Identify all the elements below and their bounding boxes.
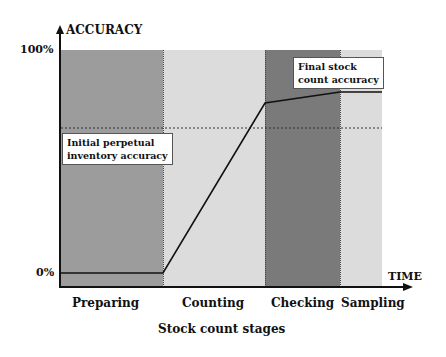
stage-label-checking: Checking [271, 296, 334, 310]
stage-label-sampling: Sampling [341, 296, 405, 310]
initial-accuracy-callout: Initial perpetual inventory accuracy [62, 133, 173, 165]
stage-label-preparing: Preparing [72, 296, 139, 310]
x-axis-label: TIME [388, 270, 422, 283]
y-axis-label: ACCURACY [66, 23, 142, 37]
y-tick-100: 100% [20, 43, 53, 56]
callout-text: Final stock [298, 60, 379, 73]
x-axis-arrow-icon [403, 283, 413, 291]
accuracy-line [61, 92, 382, 273]
stage-label-counting: Counting [182, 296, 244, 310]
x-axis-title: Stock count stages [158, 322, 285, 336]
y-tick-0: 0% [36, 266, 54, 279]
final-accuracy-callout: Final stock count accuracy [293, 57, 384, 89]
y-axis-arrow-icon [56, 25, 64, 34]
callout-text: Initial perpetual [67, 136, 168, 149]
callout-text: count accuracy [298, 73, 379, 86]
callout-text: inventory accuracy [67, 149, 168, 162]
